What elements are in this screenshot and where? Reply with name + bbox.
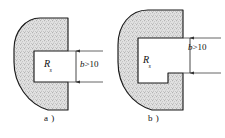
- panel-a-outline: [14, 18, 68, 110]
- panel-b-radius-label: Rs: [143, 54, 151, 67]
- panel-a-gap-dimension-label: b>10: [80, 59, 99, 69]
- panel-a-radius-subscript: s: [50, 67, 52, 73]
- panel-a-caption: a ): [44, 113, 55, 123]
- panel-a-radius-label: Rs: [44, 58, 52, 71]
- panel-a-shape: [14, 18, 68, 110]
- technical-drawing-canvas: [0, 0, 225, 138]
- figure-container: Rs b>10 Rs b>10 a ) b ): [0, 0, 225, 138]
- panel-b-caption: b ): [148, 113, 159, 123]
- panel-a-gap-condition: >10: [85, 59, 99, 69]
- panel-b-radius-subscript: s: [149, 63, 151, 69]
- panel-b-gap-condition: >10: [193, 42, 207, 52]
- panel-b-gap-dimension-label: b>10: [188, 42, 207, 52]
